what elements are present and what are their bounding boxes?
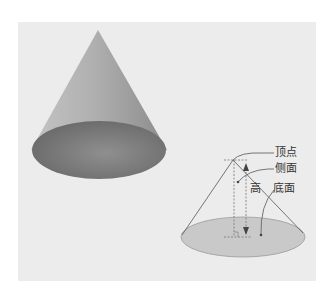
label-lateral-surface: 侧面 bbox=[275, 163, 297, 174]
apex-leader bbox=[233, 153, 274, 160]
base-leader-dot bbox=[260, 234, 263, 237]
solid-cone bbox=[31, 30, 167, 179]
solid-cone-base bbox=[32, 121, 166, 179]
height-arrow-up-icon bbox=[243, 163, 249, 171]
label-height: 高 bbox=[250, 183, 261, 194]
lateral-leader-dot bbox=[237, 181, 240, 184]
label-apex: 顶点 bbox=[275, 147, 297, 158]
label-base: 底面 bbox=[273, 183, 295, 194]
